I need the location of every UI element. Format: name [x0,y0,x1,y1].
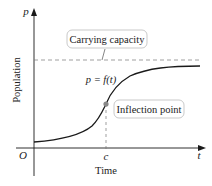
curve-label: p = f(t) [85,74,117,86]
y-axis-title: Population [11,57,22,103]
logistic-diagram: Carrying capacity Inflection point p = f… [0,0,212,186]
y-axis-symbol: p [22,5,29,17]
y-axis-arrow-icon [31,8,37,16]
inflection-point-label: Inflection point [116,104,181,115]
x-axis-symbol: t [197,149,201,161]
carrying-capacity-leader [102,49,105,60]
c-tick-label: c [104,150,109,162]
origin-label: O [19,149,27,161]
inflection-point-dot [103,101,108,106]
x-axis-title: Time [95,165,117,176]
carrying-capacity-label: Carrying capacity [70,34,146,45]
